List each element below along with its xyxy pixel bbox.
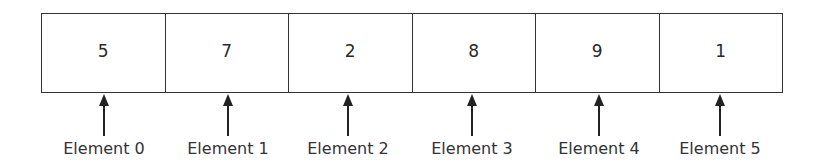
element-pointer-5: Element 5 bbox=[660, 94, 780, 158]
array-cell-4: 9 bbox=[536, 14, 660, 92]
element-label-1: Element 1 bbox=[187, 139, 269, 158]
array-cell-3: 8 bbox=[413, 14, 537, 92]
arrow-up-icon bbox=[343, 94, 353, 106]
arrow-up-icon bbox=[223, 94, 233, 106]
array-cell-2: 2 bbox=[289, 14, 413, 92]
element-pointer-2: Element 2 bbox=[288, 94, 408, 158]
element-pointer-4: Element 4 bbox=[539, 94, 659, 158]
element-pointer-1: Element 1 bbox=[168, 94, 288, 158]
element-label-2: Element 2 bbox=[307, 139, 389, 158]
arrow-shaft bbox=[471, 106, 473, 136]
element-pointer-3: Element 3 bbox=[412, 94, 532, 158]
array-cell-0: 5 bbox=[42, 14, 166, 92]
array-cell-1: 7 bbox=[166, 14, 290, 92]
element-label-0: Element 0 bbox=[63, 139, 145, 158]
arrow-shaft bbox=[227, 106, 229, 136]
element-pointer-0: Element 0 bbox=[44, 94, 164, 158]
array-cell-5: 1 bbox=[660, 14, 783, 92]
element-label-3: Element 3 bbox=[431, 139, 513, 158]
arrow-up-icon bbox=[99, 94, 109, 106]
arrow-up-icon bbox=[594, 94, 604, 106]
arrow-up-icon bbox=[715, 94, 725, 106]
arrow-shaft bbox=[103, 106, 105, 136]
arrow-up-icon bbox=[467, 94, 477, 106]
array-box: 5 7 2 8 9 1 bbox=[41, 13, 783, 93]
arrow-shaft bbox=[598, 106, 600, 136]
arrow-shaft bbox=[347, 106, 349, 136]
element-label-5: Element 5 bbox=[679, 139, 761, 158]
arrow-shaft bbox=[719, 106, 721, 136]
element-label-4: Element 4 bbox=[558, 139, 640, 158]
